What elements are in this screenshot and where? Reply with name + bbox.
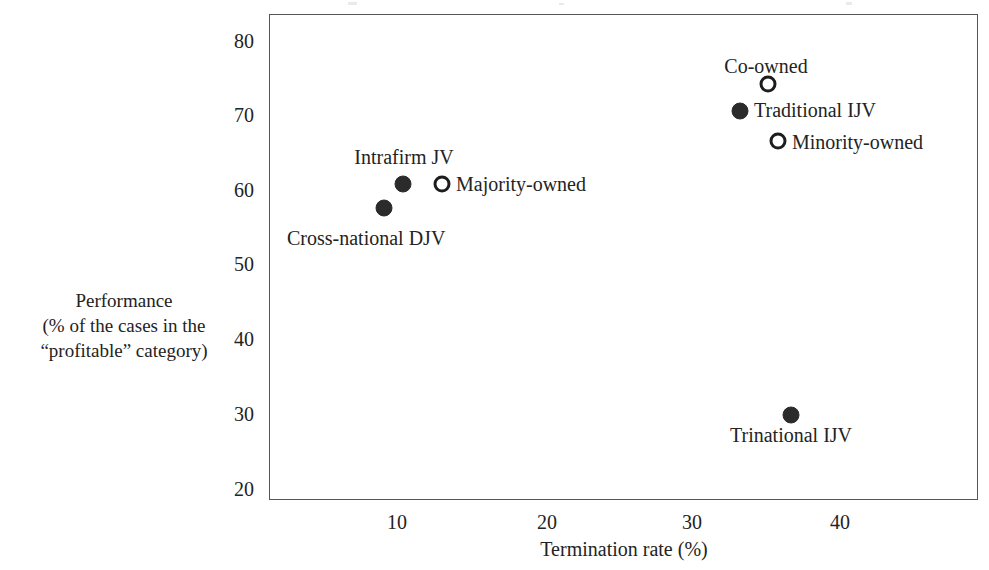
data-point-co-owned[interactable] bbox=[760, 76, 777, 93]
y-tick-label-60: 60 bbox=[206, 180, 254, 200]
y-axis-title-line-1: Performance bbox=[40, 288, 207, 313]
data-label-cross-national-djv: Cross-national DJV bbox=[287, 228, 445, 248]
y-tick-label-20: 20 bbox=[206, 479, 254, 499]
x-axis-title: Termination rate (%) bbox=[540, 538, 707, 561]
data-label-majority-owned: Majority-owned bbox=[456, 174, 586, 194]
data-label-intrafirm-jv: Intrafirm JV bbox=[354, 147, 453, 167]
y-tick-label-70: 70 bbox=[206, 105, 254, 125]
y-tick-label-40: 40 bbox=[206, 329, 254, 349]
y-tick-label-50: 50 bbox=[206, 254, 254, 274]
y-axis-title-line-2: (% of the cases in the bbox=[40, 313, 207, 338]
y-tick-label-30: 30 bbox=[206, 404, 254, 424]
y-axis-title: Performance (% of the cases in the “prof… bbox=[40, 288, 207, 363]
data-label-trinational-ijv: Trinational IJV bbox=[730, 425, 852, 445]
data-label-co-owned: Co-owned bbox=[724, 56, 807, 76]
scatter-chart-figure: 80 70 60 50 40 30 20 10 20 30 40 Termina… bbox=[0, 0, 989, 570]
y-tick-label-80: 80 bbox=[206, 31, 254, 51]
plot-area bbox=[269, 14, 978, 500]
x-tick-label-10: 10 bbox=[387, 512, 407, 532]
data-label-traditional-ijv: Traditional IJV bbox=[754, 100, 876, 120]
scan-artifact bbox=[348, 2, 357, 5]
data-point-cross-national-djv[interactable] bbox=[376, 200, 393, 217]
y-axis-title-line-3: “profitable” category) bbox=[40, 338, 207, 363]
scan-artifact bbox=[559, 3, 564, 5]
x-tick-label-20: 20 bbox=[537, 512, 557, 532]
data-point-intrafirm-jv[interactable] bbox=[395, 176, 412, 193]
data-point-minority-owned[interactable] bbox=[770, 133, 787, 150]
data-point-trinational-ijv[interactable] bbox=[783, 407, 800, 424]
scan-artifact bbox=[846, 2, 852, 5]
data-label-minority-owned: Minority-owned bbox=[792, 132, 923, 152]
x-tick-label-30: 30 bbox=[682, 512, 702, 532]
data-point-majority-owned[interactable] bbox=[434, 176, 451, 193]
data-point-traditional-ijv[interactable] bbox=[732, 103, 749, 120]
x-tick-label-40: 40 bbox=[830, 512, 850, 532]
